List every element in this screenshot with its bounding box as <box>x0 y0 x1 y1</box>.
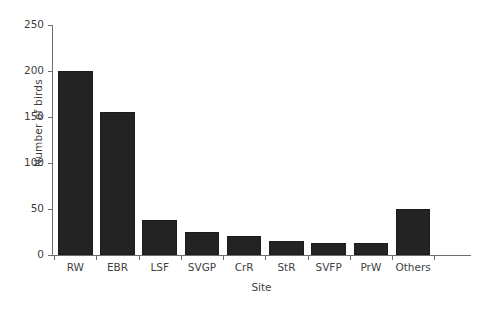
x-tick-mark <box>96 256 97 260</box>
y-tick-label: 50 <box>31 202 44 214</box>
x-axis-title: Site <box>52 281 471 293</box>
bar <box>185 232 220 255</box>
x-tick-mark <box>434 256 435 260</box>
x-tick-mark <box>223 256 224 260</box>
y-tick: 150 <box>0 117 52 118</box>
bar <box>311 243 346 255</box>
bar <box>354 243 389 255</box>
x-tick-mark <box>308 256 309 260</box>
bar <box>142 220 177 255</box>
x-tick-label: Others <box>383 261 443 273</box>
bar <box>58 71 93 255</box>
bar <box>269 241 304 255</box>
bar <box>227 236 262 255</box>
y-axis-title: Number of birds <box>32 33 44 213</box>
x-tick-mark <box>54 256 55 260</box>
y-tick-mark <box>48 255 52 256</box>
x-tick-mark <box>350 256 351 260</box>
x-tick-mark <box>181 256 182 260</box>
x-axis-line <box>52 255 471 256</box>
y-tick: 200 <box>0 71 52 72</box>
plot-area <box>52 25 470 255</box>
y-tick-label: 250 <box>24 18 44 30</box>
y-tick: 0 <box>0 255 52 256</box>
y-tick-label: 100 <box>24 156 44 168</box>
y-tick: 100 <box>0 163 52 164</box>
y-tick: 50 <box>0 209 52 210</box>
y-tick: 250 <box>0 25 52 26</box>
y-tick-label: 150 <box>24 110 44 122</box>
y-tick-label: 0 <box>37 248 44 260</box>
bar <box>396 209 431 255</box>
y-tick-label: 200 <box>24 64 44 76</box>
x-tick-mark <box>265 256 266 260</box>
bar <box>100 112 135 255</box>
x-tick-mark <box>392 256 393 260</box>
bar-chart-figure: Number of birds 050100150200250 RWEBRLSF… <box>0 0 482 309</box>
x-tick-mark <box>139 256 140 260</box>
